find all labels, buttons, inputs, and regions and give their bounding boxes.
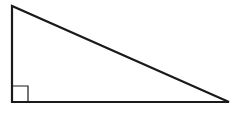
- right-angle-marker: [12, 86, 28, 102]
- triangle-outline: [12, 6, 229, 102]
- diagram-canvas: [0, 0, 240, 127]
- right-triangle-figure: [0, 0, 240, 127]
